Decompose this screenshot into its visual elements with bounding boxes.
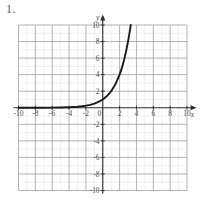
x-tick-label-4: 4 — [135, 109, 139, 118]
x-tick-label--10: -10 — [14, 109, 24, 118]
x-tick-label-2: 2 — [118, 109, 122, 118]
y-tick-label-4: 4 — [96, 70, 100, 79]
y-tick-label--2: -2 — [93, 120, 99, 129]
exponential-graph-figure: 1. -10-8-6-4-20246810108642-2-4-6-8-10 x… — [0, 0, 204, 199]
graph-svg: -10-8-6-4-20246810108642-2-4-6-8-10 xy — [0, 0, 204, 199]
y-tick-label--10: -10 — [90, 186, 100, 195]
y-tick-label-2: 2 — [96, 87, 100, 96]
y-tick-label-10: 10 — [92, 21, 100, 30]
y-tick-label-6: 6 — [96, 54, 100, 63]
y-axis-arrow-icon — [100, 15, 105, 21]
y-tick-label-8: 8 — [96, 37, 100, 46]
x-tick-label--8: -8 — [32, 109, 38, 118]
x-tick-label-6: 6 — [151, 109, 155, 118]
x-tick-label--2: -2 — [83, 109, 89, 118]
y-tick-label--8: -8 — [93, 170, 99, 179]
y-tick-label--6: -6 — [93, 153, 99, 162]
coordinate-plane: -10-8-6-4-20246810108642-2-4-6-8-10 xy — [0, 0, 204, 199]
x-axis-name-label: x — [190, 110, 195, 119]
y-tick-label--4: -4 — [93, 137, 99, 146]
y-axis-name-label: y — [95, 13, 100, 22]
x-tick-label-8: 8 — [168, 109, 172, 118]
x-tick-label--4: -4 — [66, 109, 72, 118]
x-tick-label--6: -6 — [49, 109, 55, 118]
x-tick-label-0: 0 — [97, 109, 101, 118]
